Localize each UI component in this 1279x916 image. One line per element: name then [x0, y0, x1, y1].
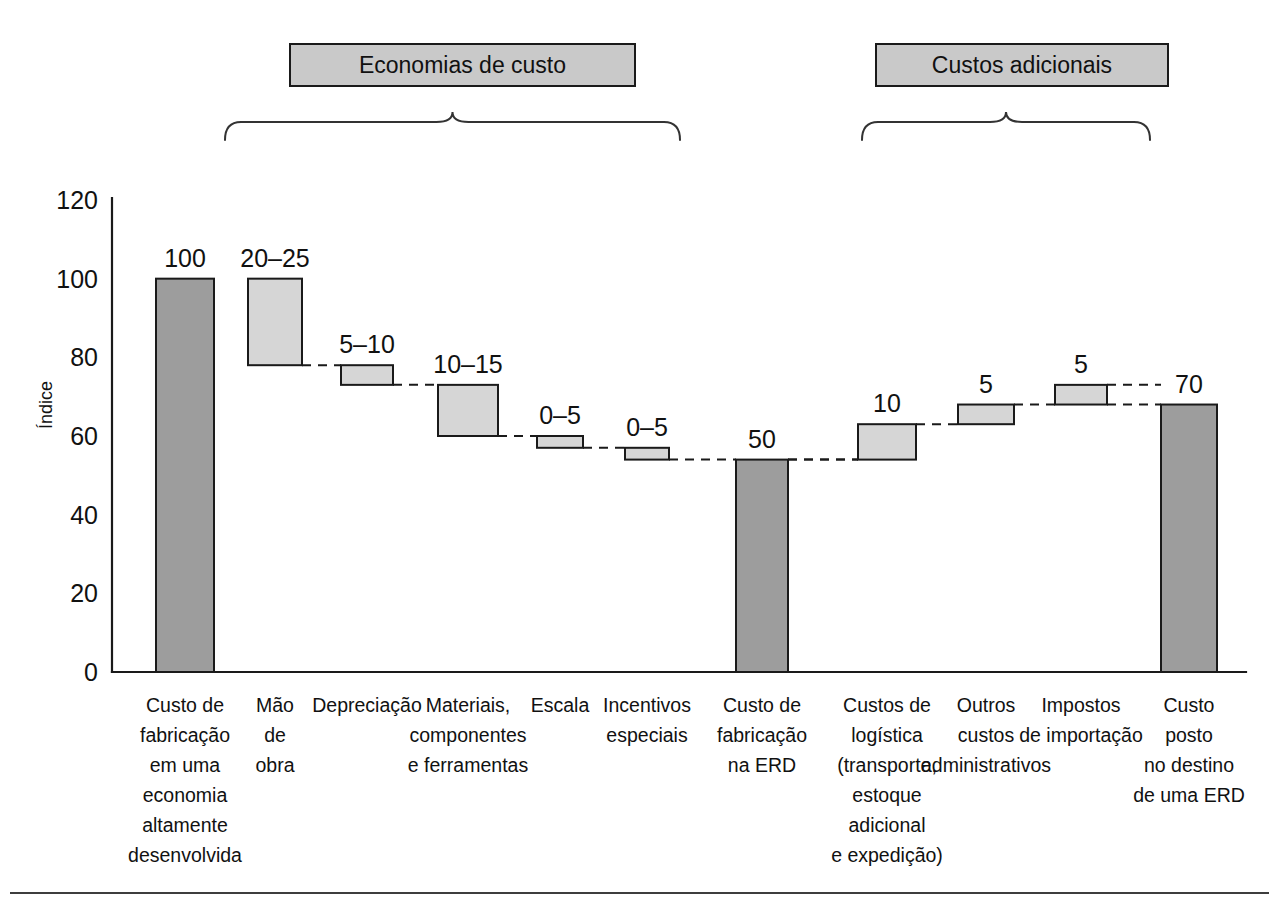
category-label-custos-logistica: estoque	[852, 784, 921, 806]
group-header-label-savings: Economias de custo	[359, 52, 566, 78]
value-label-custos-logistica: 10	[873, 389, 901, 417]
value-label-outros-custos-administrativos: 5	[979, 370, 993, 398]
group-headers-layer: Economias de custoCustos adicionais	[290, 44, 1168, 86]
category-label-custo-fabricacao-ed: altamente	[142, 814, 228, 836]
y-tick-label: 100	[56, 265, 98, 293]
bar-depreciacao	[341, 365, 393, 385]
bar-escala	[537, 436, 583, 448]
value-label-impostos-de-importacao: 5	[1074, 350, 1088, 378]
value-label-custo-fabricacao-erd: 50	[748, 425, 776, 453]
category-label-custo-fabricacao-ed: em uma	[150, 754, 221, 776]
category-label-custo-fabricacao-erd: na ERD	[728, 754, 796, 776]
value-label-mao-de-obra: 20–25	[240, 244, 310, 272]
group-header-label-additional: Custos adicionais	[932, 52, 1112, 78]
category-label-materiais-componentes-ferramentas: Materiais,	[426, 694, 511, 716]
category-label-escala: Escala	[531, 694, 590, 716]
y-tick-label: 20	[70, 579, 98, 607]
category-label-incentivos-especiais: Incentivos	[603, 694, 691, 716]
category-label-impostos-de-importacao: Impostos	[1041, 694, 1120, 716]
bar-mao-de-obra	[248, 279, 302, 366]
category-label-custos-logistica: adicional	[849, 814, 926, 836]
y-tick-label: 60	[70, 422, 98, 450]
category-label-custo-posto-destino-erd: posto	[1165, 724, 1213, 746]
value-label-materiais-componentes-ferramentas: 10–15	[433, 350, 503, 378]
category-label-custos-logistica: logística	[851, 724, 923, 746]
y-tick-label: 0	[84, 658, 98, 686]
category-label-impostos-de-importacao: de importação	[1019, 724, 1143, 746]
category-label-materiais-componentes-ferramentas: e ferramentas	[408, 754, 529, 776]
bar-outros-custos-administrativos	[958, 405, 1014, 425]
category-label-custo-posto-destino-erd: Custo	[1164, 694, 1215, 716]
category-label-mao-de-obra: obra	[255, 754, 294, 776]
bar-materiais-componentes-ferramentas	[438, 385, 498, 436]
waterfall-figure: Economias de custoCustos adicionais 0204…	[0, 0, 1279, 916]
category-label-depreciacao: Depreciação	[312, 694, 422, 716]
value-label-custo-fabricacao-ed: 100	[164, 244, 206, 272]
category-label-custo-fabricacao-ed: Custo de	[146, 694, 224, 716]
value-label-incentivos-especiais: 0–5	[626, 413, 668, 441]
bars-layer	[156, 279, 1217, 672]
category-label-custo-fabricacao-ed: economia	[143, 784, 228, 806]
value-label-escala: 0–5	[539, 401, 581, 429]
category-label-mao-de-obra: de	[264, 724, 286, 746]
category-label-custo-posto-destino-erd: no destino	[1144, 754, 1234, 776]
value-label-custo-posto-destino-erd: 70	[1175, 370, 1203, 398]
y-tick-label: 40	[70, 501, 98, 529]
category-label-custo-fabricacao-erd: fabricação	[717, 724, 807, 746]
category-label-outros-custos-administrativos: administrativos	[921, 754, 1051, 776]
y-tick-label: 120	[56, 186, 98, 214]
bar-custo-fabricacao-ed	[156, 279, 214, 672]
category-labels-layer: Custo defabricaçãoem umaeconomiaaltament…	[128, 694, 1245, 866]
category-label-custo-posto-destino-erd: de uma ERD	[1133, 784, 1245, 806]
value-labels-layer: 10020–255–1010–150–50–550105570	[164, 244, 1203, 453]
bar-custo-posto-destino-erd	[1161, 405, 1217, 672]
category-label-incentivos-especiais: especiais	[606, 724, 688, 746]
category-label-custos-logistica: e expedição)	[831, 844, 943, 866]
group-brace-additional	[862, 112, 1150, 140]
y-axis-title: Índice	[36, 381, 56, 429]
category-label-custos-logistica: Custos de	[843, 694, 931, 716]
braces-layer	[225, 112, 1150, 140]
bar-custos-logistica	[858, 424, 916, 459]
category-label-materiais-componentes-ferramentas: componentes	[409, 724, 526, 746]
bar-custo-fabricacao-erd	[736, 460, 788, 672]
category-label-custo-fabricacao-ed: desenvolvida	[128, 844, 242, 866]
bar-incentivos-especiais	[625, 448, 669, 460]
category-label-mao-de-obra: Mão	[256, 694, 294, 716]
category-label-outros-custos-administrativos: Outros	[957, 694, 1016, 716]
category-label-outros-custos-administrativos: custos	[958, 724, 1015, 746]
group-brace-savings	[225, 112, 680, 140]
category-label-custo-fabricacao-erd: Custo de	[723, 694, 801, 716]
category-label-custo-fabricacao-ed: fabricação	[140, 724, 230, 746]
connectors-layer	[302, 365, 1161, 459]
y-tick-label: 80	[70, 343, 98, 371]
waterfall-chart: Economias de custoCustos adicionais 0204…	[0, 0, 1279, 916]
bar-impostos-de-importacao	[1055, 385, 1107, 405]
value-label-depreciacao: 5–10	[339, 330, 395, 358]
